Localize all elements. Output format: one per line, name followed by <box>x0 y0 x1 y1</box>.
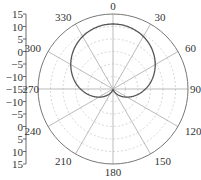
angle-label-120: 120 <box>185 125 201 137</box>
radial-tick-label: 15 <box>12 158 24 170</box>
radial-tick-label: −10 <box>6 96 24 108</box>
radial-tick-label: 5 <box>18 33 24 45</box>
radial-tick-label: −5 <box>11 108 23 120</box>
grid-spoke <box>113 89 178 127</box>
grid-spoke <box>76 24 114 89</box>
angle-label-300: 300 <box>25 42 42 54</box>
angle-label-240: 240 <box>25 125 42 137</box>
radial-tick-label: 0 <box>18 46 24 58</box>
radial-tick-label: −5 <box>11 58 23 70</box>
radial-tick-label: 15 <box>12 8 24 20</box>
grid-spoke <box>48 52 113 90</box>
polar-chart: 0306090120150180210240270300330 151050−5… <box>0 0 201 180</box>
radial-tick-label: 5 <box>18 133 24 145</box>
grid-spoke <box>113 24 151 89</box>
angle-label-150: 150 <box>155 155 172 167</box>
angle-label-30: 30 <box>155 11 167 23</box>
angle-label-0: 0 <box>110 0 116 12</box>
radial-axis: 151050−5−10−15−10−5051015 <box>6 8 26 170</box>
radial-tick-label: 10 <box>12 21 24 33</box>
angle-label-210: 210 <box>55 155 72 167</box>
grid-spoke <box>48 89 113 127</box>
radial-tick-label: −10 <box>6 71 24 83</box>
radial-tick-label: −15 <box>6 83 24 95</box>
angle-label-60: 60 <box>185 42 197 54</box>
radial-tick-label: 10 <box>12 146 24 158</box>
grid-spoke <box>76 89 114 154</box>
angle-label-90: 90 <box>190 83 201 95</box>
angle-label-180: 180 <box>105 166 122 178</box>
angle-label-330: 330 <box>55 11 72 23</box>
radial-tick-label: 0 <box>18 121 24 133</box>
grid-spoke <box>113 89 151 154</box>
grid-spoke <box>113 52 178 90</box>
